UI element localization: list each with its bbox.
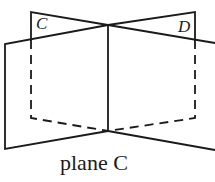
intersecting-planes-diagram: C D plane C [0, 0, 215, 182]
plane-d-hidden-edge [108, 40, 195, 131]
diagram-caption: plane C [60, 150, 128, 176]
plane-d-label: D [178, 17, 190, 37]
front-left-plane [5, 25, 108, 149]
plane-c-label: C [36, 14, 47, 34]
plane-c-hidden-edge [31, 40, 108, 131]
front-right-plane [108, 25, 215, 43]
front-right-plane-bottom [108, 131, 215, 150]
